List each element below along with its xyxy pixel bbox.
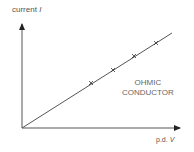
y-axis-symbol: I — [39, 5, 41, 14]
x-axis-text: p.d. — [156, 136, 168, 143]
y-axis-label: current I — [12, 6, 41, 14]
ohmic-graph — [0, 0, 194, 152]
x-axis-symbol: V — [170, 136, 175, 143]
ohmic-annotation: OHMIC CONDUCTOR — [122, 78, 174, 98]
annotation-line-1: OHMIC — [122, 78, 174, 88]
x-axis-label: p.d. V — [156, 136, 174, 143]
y-axis-text: current — [12, 5, 37, 14]
annotation-line-2: CONDUCTOR — [122, 88, 174, 98]
